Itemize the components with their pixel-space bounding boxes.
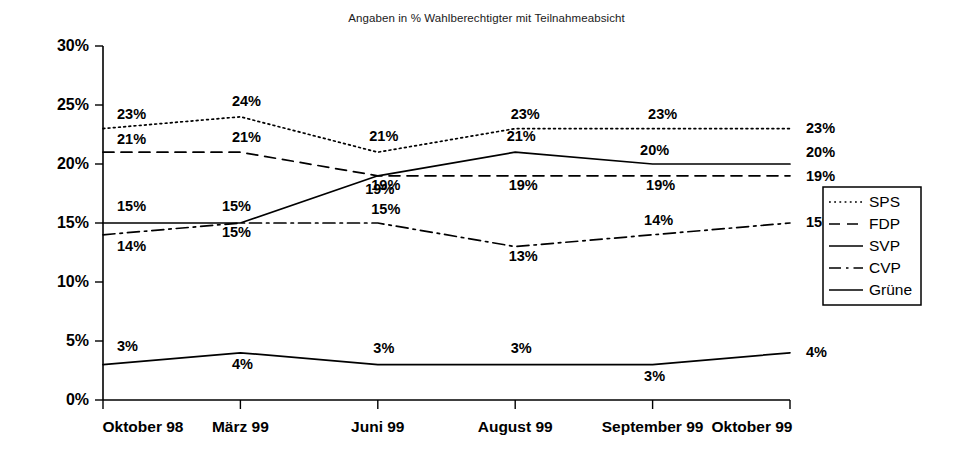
series-line-sps bbox=[103, 117, 790, 152]
chart-container: Angaben in % Wahlberechtigter mit Teilna… bbox=[0, 0, 973, 464]
legend-label-sps: SPS bbox=[869, 193, 900, 210]
point-label: 4% bbox=[232, 356, 253, 372]
series-line-grüne bbox=[103, 353, 790, 365]
point-label: 15% bbox=[222, 224, 251, 240]
point-label: 3% bbox=[373, 340, 394, 356]
point-label: 20% bbox=[640, 142, 669, 158]
point-label: 21% bbox=[117, 131, 146, 147]
y-tick-label: 5% bbox=[66, 332, 89, 349]
point-label: 14% bbox=[117, 238, 146, 254]
x-tick-label: September 99 bbox=[602, 418, 704, 435]
legend-label-cvp: CVP bbox=[869, 259, 901, 276]
point-label: 14% bbox=[644, 212, 673, 228]
point-label: 21% bbox=[369, 128, 398, 144]
point-label: 23% bbox=[511, 106, 540, 122]
point-label: 19% bbox=[365, 181, 394, 197]
data-point-labels: 23%24%21%23%23%23%21%21%19%19%19%19%15%1… bbox=[117, 93, 835, 384]
point-label: 23% bbox=[117, 106, 146, 122]
point-label: 23% bbox=[648, 106, 677, 122]
point-label: 3% bbox=[644, 368, 665, 384]
x-tick-label: Oktober 98 bbox=[103, 418, 184, 435]
x-axis: Oktober 98März 99Juni 99August 99Septemb… bbox=[103, 400, 793, 435]
legend: SPSFDPSVPCVPGrüne bbox=[823, 187, 921, 305]
y-tick-label: 25% bbox=[57, 96, 89, 113]
y-tick-label: 30% bbox=[57, 37, 89, 54]
point-label: 20% bbox=[806, 144, 835, 160]
point-label: 19% bbox=[646, 177, 675, 193]
point-label: 4% bbox=[806, 344, 827, 360]
point-label: 19% bbox=[509, 177, 538, 193]
legend-label-svp: SVP bbox=[869, 237, 900, 254]
x-tick-label: März 99 bbox=[212, 418, 269, 435]
point-label: 23% bbox=[806, 120, 835, 136]
point-label: 3% bbox=[511, 340, 532, 356]
x-tick-label: Oktober 99 bbox=[712, 418, 793, 435]
series-line-cvp bbox=[103, 223, 790, 247]
point-label: 13% bbox=[509, 248, 538, 264]
x-tick-label: Juni 99 bbox=[351, 418, 405, 435]
series-lines bbox=[103, 117, 790, 365]
point-label: 15% bbox=[371, 201, 400, 217]
point-label: 3% bbox=[117, 338, 138, 354]
y-tick-label: 0% bbox=[66, 391, 89, 408]
point-label: 15% bbox=[117, 198, 146, 214]
legend-label-grüne: Grüne bbox=[869, 281, 912, 298]
point-label: 21% bbox=[507, 128, 536, 144]
point-label: 21% bbox=[232, 129, 261, 145]
legend-label-fdp: FDP bbox=[869, 215, 900, 232]
point-label: 19% bbox=[806, 168, 835, 184]
point-label: 24% bbox=[232, 93, 261, 109]
line-chart-plot: 0%5%10%15%20%25%30% Oktober 98März 99Jun… bbox=[0, 0, 973, 464]
y-tick-label: 10% bbox=[57, 273, 89, 290]
y-tick-label: 20% bbox=[57, 155, 89, 172]
point-label: 15% bbox=[222, 198, 251, 214]
x-tick-label: August 99 bbox=[478, 418, 553, 435]
y-tick-label: 15% bbox=[57, 214, 89, 231]
y-axis: 0%5%10%15%20%25%30% bbox=[57, 37, 103, 408]
series-line-svp bbox=[103, 152, 790, 223]
